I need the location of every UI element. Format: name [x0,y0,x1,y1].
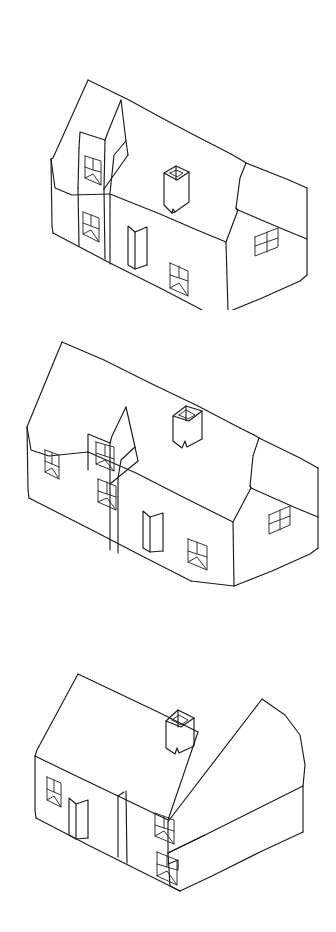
house-1-dormer [78,100,128,193]
house-3-wing-front-wall [118,786,303,891]
house-2-dormer [88,407,138,484]
house-3-wing-lower-window [157,852,177,885]
house-2-front-door[interactable] [143,511,163,552]
house-1-chimney [164,166,189,213]
house-3-drawing [0,620,336,932]
house-2-right-end [234,468,318,586]
house-sketch-3 [0,620,336,932]
house-sketch-1 [0,60,336,310]
house-1-drawing [0,60,336,310]
house-2-drawing [0,340,336,590]
house-1-front-wall [51,159,228,310]
house-3-left-upper-window [47,777,61,807]
house-1-gable-end-window [255,228,278,256]
house-2-gable-end-window [269,506,290,534]
house-1-roof [51,80,307,242]
house-3-front-door[interactable] [69,798,88,839]
house-3-left-front-wall [35,756,180,891]
house-1-front-lower-window [170,263,188,296]
house-2-front-mid-window [98,479,116,510]
house-2-chimney [173,406,202,448]
drawing-sheet [0,0,336,932]
house-1-front-door[interactable] [128,226,147,269]
house-1-right-end [228,188,307,310]
house-1-front-upper-window [83,212,99,242]
house-sketch-2 [0,340,336,590]
house-3-chimney [166,710,194,754]
house-2-far-left-window [45,450,59,479]
house-1-dormer-window [85,156,101,185]
house-2-front-lower-window [188,539,207,570]
house-3-left-roof [35,674,198,820]
